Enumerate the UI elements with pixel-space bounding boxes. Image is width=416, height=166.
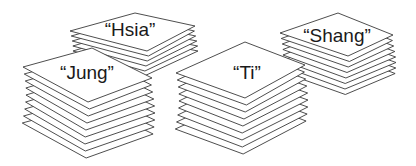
label-jung: “Jung”	[60, 62, 114, 84]
stack-ti	[175, 42, 308, 154]
paper-stacks-illustration: “Hsia” “Shang” “Jung” “Ti”	[0, 0, 416, 166]
label-hsia: “Hsia”	[105, 19, 156, 41]
label-ti: “Ti”	[233, 62, 261, 84]
label-shang: “Shang”	[303, 25, 371, 47]
